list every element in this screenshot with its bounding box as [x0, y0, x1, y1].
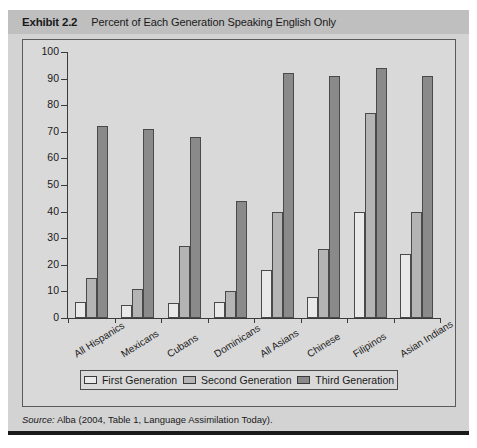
bar	[179, 246, 190, 318]
bar	[261, 270, 272, 318]
bar-group	[254, 52, 301, 318]
bar	[190, 137, 201, 318]
legend-item: Second Generation	[183, 374, 291, 386]
legend-label: First Generation	[102, 374, 177, 386]
bar	[283, 73, 294, 318]
y-tick-mark	[61, 291, 67, 292]
x-tick-mark	[208, 318, 209, 323]
bar	[225, 291, 236, 318]
exhibit-container: Exhibit 2.2 Percent of Each Generation S…	[8, 10, 469, 435]
top-margin	[0, 0, 477, 8]
plot-wrapper: 0102030405060708090100 All HispanicsMexi…	[23, 40, 455, 406]
y-tick-mark	[61, 185, 67, 186]
y-tick-mark	[61, 238, 67, 239]
chart-legend: First GenerationSecond GenerationThird G…	[80, 370, 398, 390]
bar	[329, 76, 340, 318]
category-label: All Asians	[258, 327, 301, 359]
legend-swatch	[84, 376, 97, 384]
bar	[400, 254, 411, 318]
y-axis-labels: 0102030405060708090100	[23, 40, 59, 330]
y-tick-label: 90	[29, 73, 59, 83]
y-tick-mark	[61, 132, 67, 133]
y-tick-label: 40	[29, 206, 59, 216]
plot-area	[68, 52, 440, 318]
y-tick-label: 50	[29, 179, 59, 189]
exhibit-label: Exhibit 2.2	[22, 16, 77, 28]
legend-label: Second Generation	[201, 374, 291, 386]
category-label: Asian Indians	[398, 318, 455, 359]
x-tick-mark	[394, 318, 395, 323]
bar	[411, 212, 422, 318]
x-tick-mark	[347, 318, 348, 323]
bar-group	[347, 52, 394, 318]
bar	[272, 212, 283, 318]
bar-group	[301, 52, 348, 318]
bar	[318, 249, 329, 318]
y-tick-label: 60	[29, 152, 59, 162]
x-tick-mark	[68, 318, 69, 323]
bar	[214, 302, 225, 318]
y-tick-label: 80	[29, 99, 59, 109]
y-tick-mark	[61, 158, 67, 159]
bar	[376, 68, 387, 318]
bar	[97, 126, 108, 318]
page-root: Exhibit 2.2 Percent of Each Generation S…	[0, 0, 477, 448]
bar	[354, 212, 365, 318]
category-label: Chinese	[305, 331, 342, 360]
bar-group	[115, 52, 162, 318]
legend-item: Third Generation	[297, 374, 394, 386]
category-label: Mexicans	[119, 328, 161, 360]
bar-group	[394, 52, 441, 318]
y-tick-label: 0	[29, 312, 59, 322]
y-tick-mark	[61, 105, 67, 106]
bar	[121, 305, 132, 318]
bar-group	[208, 52, 255, 318]
source-prefix: Source:	[22, 414, 55, 425]
bar	[168, 303, 179, 318]
bar-group	[68, 52, 115, 318]
x-tick-mark	[301, 318, 302, 323]
exhibit-title-bar: Exhibit 2.2 Percent of Each Generation S…	[8, 10, 469, 34]
y-tick-label: 20	[29, 259, 59, 269]
y-tick-mark	[61, 265, 67, 266]
y-tick-mark	[61, 52, 67, 53]
legend-label: Third Generation	[315, 374, 394, 386]
legend-item: First Generation	[84, 374, 177, 386]
bottom-rule	[8, 431, 469, 435]
y-tick-mark	[61, 79, 67, 80]
y-tick-label: 100	[29, 46, 59, 56]
category-label: Cubans	[165, 332, 200, 360]
y-tick-label: 30	[29, 232, 59, 242]
source-note: Source: Alba (2004, Table 1, Language As…	[22, 414, 273, 425]
legend-swatch	[183, 376, 196, 384]
legend-swatch	[297, 376, 310, 384]
bar	[132, 289, 143, 318]
bar	[86, 278, 97, 318]
category-label: All Hispanics	[72, 320, 126, 360]
bar	[143, 129, 154, 318]
bar	[307, 297, 318, 318]
bar	[236, 201, 247, 318]
bar-group	[161, 52, 208, 318]
bar	[75, 302, 86, 318]
chart-panel: 0102030405060708090100 All HispanicsMexi…	[22, 39, 456, 407]
y-tick-mark	[61, 212, 67, 213]
exhibit-title: Percent of Each Generation Speaking Engl…	[91, 16, 336, 28]
category-label: Dominicans	[212, 322, 262, 359]
bar	[365, 113, 376, 318]
category-label: Filipinos	[351, 331, 388, 360]
source-text: Alba (2004, Table 1, Language Assimilati…	[57, 414, 273, 425]
x-tick-mark	[161, 318, 162, 323]
y-tick-mark	[61, 318, 67, 319]
y-tick-label: 10	[29, 285, 59, 295]
y-tick-label: 70	[29, 126, 59, 136]
bar	[422, 76, 433, 318]
